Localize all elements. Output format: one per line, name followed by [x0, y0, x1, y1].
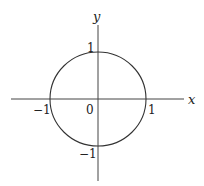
tick-y-neg: −1 — [79, 147, 97, 161]
tick-x-pos: 1 — [148, 103, 156, 117]
x-axis-label: x — [188, 92, 196, 107]
y-axis-label: y — [92, 9, 101, 24]
tick-y-pos: 1 — [87, 41, 95, 55]
origin-label: 0 — [86, 103, 94, 117]
unit-circle-diagram: y x 1 −1 −1 1 0 — [0, 0, 204, 186]
tick-x-neg: −1 — [33, 103, 51, 117]
